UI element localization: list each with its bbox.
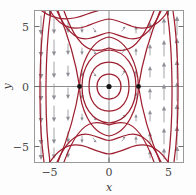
x-tick-label-0: 0 [106,166,113,179]
x-tick-label-5: 5 [165,166,172,179]
y-axis-title: y [1,83,14,91]
phase-portrait-figure: −5 0 5 5 0 −5 x y [0,0,196,195]
x-tick-label-neg5: −5 [41,166,57,179]
chart-canvas: −5 0 5 5 0 −5 x y [0,0,196,195]
equilibrium-saddle-right [136,84,141,89]
x-axis-title: x [106,181,113,194]
y-tick-label-5: 5 [22,21,29,34]
y-tick-label-neg5: −5 [13,141,29,154]
equilibrium-center-origin [106,84,111,89]
y-tick-label-0: 0 [22,81,29,94]
equilibrium-saddle-left [77,84,82,89]
